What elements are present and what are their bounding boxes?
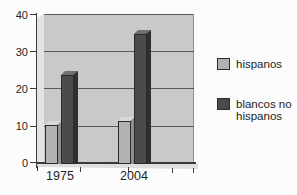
x-axis-label-2004: 2004 — [112, 169, 156, 183]
y-axis-line — [36, 13, 37, 168]
bar-front-face — [61, 75, 74, 164]
bar-front-face — [118, 121, 131, 164]
y-tick-40 — [30, 14, 36, 15]
x-axis-label-1975: 1975 — [38, 169, 82, 183]
x-tick — [172, 168, 173, 173]
y-axis-label-20: 20 — [2, 82, 28, 96]
y-tick-20 — [30, 88, 36, 89]
y-axis-label-10: 10 — [2, 119, 28, 133]
bar-front-face — [134, 34, 147, 164]
legend-item-hispanos: hispanos — [217, 58, 297, 70]
bar-blancos-2004 — [134, 30, 152, 164]
legend-swatch-hispanos — [217, 58, 230, 70]
legend-label-hispanos: hispanos — [236, 58, 282, 70]
y-tick-10 — [30, 126, 36, 127]
scanned-bar-chart: 0 10 20 30 40 1975 2004 hispanos — [0, 0, 297, 195]
bar-blancos-1975 — [61, 71, 79, 164]
y-tick-0 — [30, 162, 36, 163]
y-tick-30 — [30, 51, 36, 52]
gridline-30 — [44, 51, 194, 52]
legend-item-blancos-no-hispanos: blancos no hispanos — [217, 98, 297, 122]
x-tick — [193, 168, 194, 173]
legend-swatch-blancos — [217, 98, 230, 110]
legend: hispanos blancos no hispanos — [217, 58, 297, 122]
y-axis-label-30: 30 — [2, 45, 28, 59]
y-axis-label-0: 0 — [2, 156, 28, 170]
bar-front-face — [45, 125, 58, 164]
legend-label-blancos: blancos no hispanos — [236, 98, 297, 122]
plot-side-wall — [36, 14, 44, 167]
y-axis-label-40: 40 — [2, 8, 28, 22]
